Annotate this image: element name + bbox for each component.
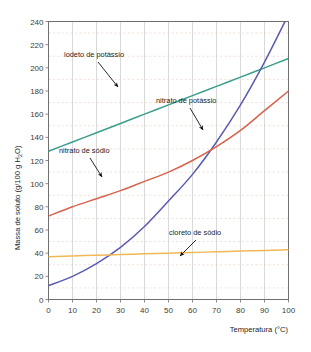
y-tick-label: 180 [30,87,44,96]
x-tick-labels: 0102030405060708090100 [46,300,295,315]
y-tick-label: 60 [35,226,44,235]
x-tick-label: 20 [92,306,101,315]
x-tick-label: 40 [140,306,149,315]
y-tick-label: 80 [35,203,44,212]
x-tick-label: 50 [164,306,173,315]
y-tick-label: 40 [35,249,44,258]
y-tick-label: 220 [30,41,44,50]
x-tick-label: 0 [46,306,51,315]
y-tick-label: 0 [39,296,44,305]
x-tick-label: 60 [188,306,197,315]
x-tick-label: 10 [68,306,77,315]
grid-layer [49,22,289,300]
y-axis-title: Massa de soluto (g/100 g H2O) [13,145,23,250]
x-tick-label: 80 [236,306,245,315]
series-annotation-label: nitrato de potássio [156,96,216,105]
y-tick-label: 100 [30,180,44,189]
y-tick-label: 20 [35,272,44,281]
x-axis-title: Temperatura (°C) [230,325,289,334]
y-tick-labels: 020406080100120140160180200220240 [30,18,48,305]
x-tick-label: 30 [116,306,125,315]
annotation-layer: iodeto de potássionitrato de potássionit… [59,50,221,256]
y-tick-label: 140 [30,133,44,142]
y-tick-label: 200 [30,64,44,73]
annotation-arrow [180,240,196,256]
series-annotation-label: cloreto de sódio [169,228,221,237]
chart-canvas: 020406080100120140160180200220240 010203… [0,0,311,352]
annotation-arrow [90,158,102,177]
series-annotation-label: nitrato de sódio [59,146,110,155]
annotation-arrow [98,62,118,87]
y-tick-label: 120 [30,157,44,166]
solubility-chart: 020406080100120140160180200220240 010203… [0,0,311,352]
annotation-arrow [190,108,203,130]
x-tick-label: 70 [212,306,221,315]
y-tick-label: 160 [30,110,44,119]
series-annotation-label: iodeto de potássio [64,50,124,59]
x-tick-label: 100 [282,306,296,315]
x-tick-label: 90 [260,306,269,315]
y-tick-label: 240 [30,18,44,27]
